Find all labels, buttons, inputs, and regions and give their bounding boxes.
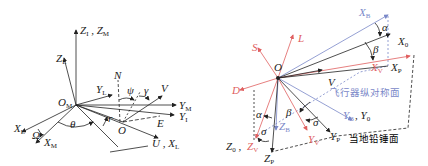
label-y0: , Y0 bbox=[355, 109, 371, 123]
label-xm: XM bbox=[43, 136, 58, 150]
sigma-left-arc bbox=[258, 138, 269, 142]
label-o: O bbox=[118, 124, 126, 136]
e-axis-dashed bbox=[123, 116, 160, 122]
u-axis bbox=[76, 105, 158, 138]
label-z0: Z0 , bbox=[226, 140, 241, 154]
label-psi: ψ bbox=[127, 84, 134, 96]
gamma-ref-dashed bbox=[123, 92, 140, 122]
alpha-low-arc bbox=[264, 116, 272, 118]
beta-low-arc bbox=[300, 102, 310, 112]
label-beta-low: β bbox=[285, 106, 292, 118]
label-zv: ZV bbox=[247, 140, 258, 154]
label-xl: XL bbox=[13, 122, 25, 136]
label-symmetry-plane: 飞行器纵对称面 bbox=[330, 87, 400, 98]
label-omega: Ω bbox=[32, 129, 40, 141]
label-zb: ZB bbox=[279, 120, 290, 134]
label-gamma: γ bbox=[144, 84, 149, 96]
label-d: D bbox=[231, 84, 240, 96]
label-sigma-left: σ bbox=[261, 125, 267, 137]
label-u-xl: U , XL bbox=[152, 137, 179, 151]
ground-line bbox=[110, 146, 148, 152]
label-xv: XV bbox=[370, 61, 383, 75]
label-v: V bbox=[161, 82, 169, 94]
label-theta: θ bbox=[70, 118, 76, 130]
alpha-top-arc bbox=[375, 23, 380, 36]
label-beta-top: β bbox=[372, 43, 379, 55]
label-xb: XB bbox=[358, 6, 371, 20]
label-n: N bbox=[113, 69, 122, 81]
label-zp: ZP bbox=[264, 152, 274, 166]
label-zi-zm: ZI , ZM bbox=[80, 24, 110, 38]
z-p-axis bbox=[272, 78, 278, 152]
label-zl: ZL bbox=[56, 52, 66, 66]
r-arc bbox=[103, 117, 107, 126]
label-yp: YP bbox=[330, 130, 340, 144]
label-yl: YL bbox=[96, 83, 106, 97]
beta-top-arc bbox=[365, 42, 373, 60]
label-xp: XP bbox=[390, 61, 402, 75]
gamma-arc bbox=[139, 96, 149, 100]
label-s: S bbox=[252, 41, 258, 53]
label-alpha-top: α bbox=[382, 21, 388, 33]
label-x0: X0 bbox=[397, 35, 409, 49]
n-axis-dashed bbox=[118, 80, 120, 122]
label-yv: YV bbox=[308, 133, 319, 147]
coordinate-frames-diagram: ZI , ZM ZL YL OM YM YI XL XM Ω θ r N ψ γ… bbox=[0, 0, 428, 166]
psi-arc bbox=[119, 98, 134, 100]
origin-point bbox=[276, 76, 280, 80]
label-l: L bbox=[297, 32, 304, 44]
label-e: E bbox=[156, 117, 164, 129]
label-alpha-low: α bbox=[256, 108, 262, 120]
label-r: r bbox=[108, 112, 113, 124]
theta-arc bbox=[58, 122, 93, 127]
label-om: OM bbox=[58, 96, 73, 110]
y-l-axis bbox=[76, 95, 112, 105]
label-yb: YB bbox=[343, 109, 354, 123]
label-o: O bbox=[274, 61, 282, 73]
d-axis bbox=[240, 78, 278, 90]
label-vertical-plane: 当地铅锤面 bbox=[349, 133, 399, 144]
label-sigma-right: σ bbox=[313, 116, 319, 128]
